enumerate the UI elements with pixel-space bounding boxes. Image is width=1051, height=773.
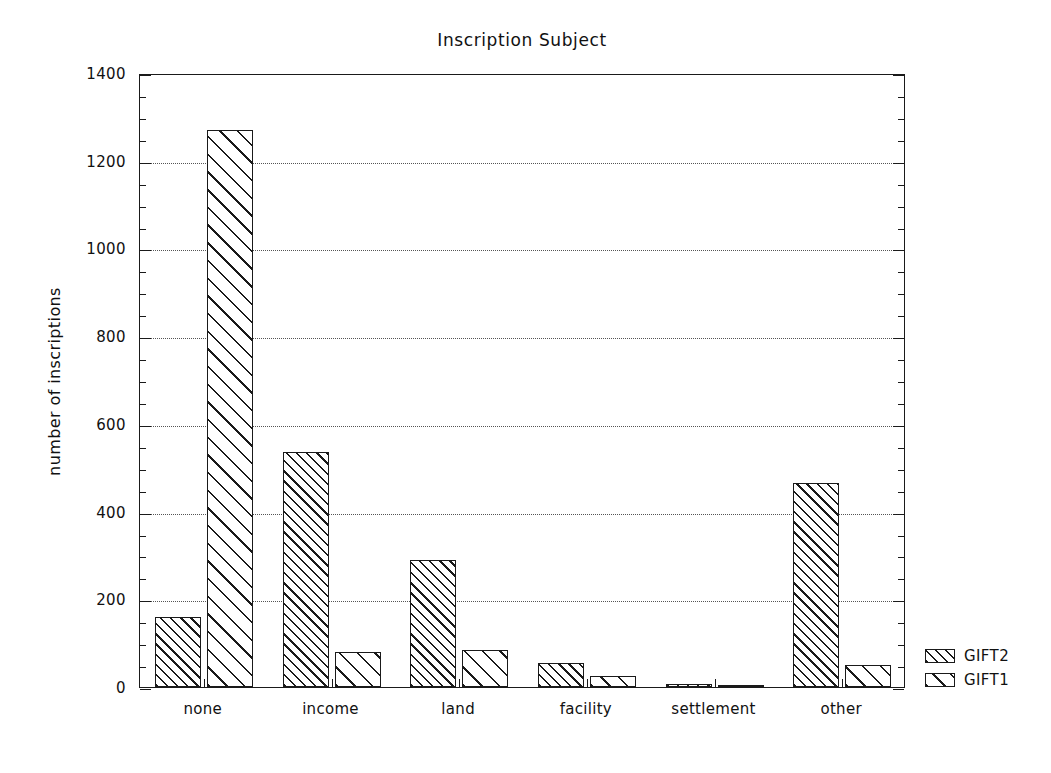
x-axis-tick <box>332 679 333 687</box>
y-axis-major-tick <box>140 163 151 164</box>
bar-gift1-settlement <box>718 685 764 688</box>
gridline <box>140 426 904 427</box>
gridline <box>140 514 904 515</box>
y-axis-minor-tick <box>140 492 146 493</box>
y-axis-tick-label: 600 <box>96 416 126 434</box>
y-axis-minor-tick <box>140 667 146 668</box>
bar-gift1-land <box>462 650 508 687</box>
bar-gift2-none <box>155 617 201 687</box>
y-axis-major-tick <box>893 689 904 690</box>
y-axis-major-tick <box>893 75 904 76</box>
x-axis-tick-label-facility: facility <box>560 700 612 718</box>
bar-gift2-facility <box>538 663 584 687</box>
y-axis-minor-tick <box>898 557 904 558</box>
y-axis-minor-tick <box>140 470 146 471</box>
y-axis-minor-tick <box>898 97 904 98</box>
y-axis-minor-tick <box>140 382 146 383</box>
y-axis-tick-label: 400 <box>96 504 126 522</box>
y-axis-tick-label: 200 <box>96 591 126 609</box>
y-axis-minor-tick <box>140 97 146 98</box>
y-axis-minor-tick <box>140 294 146 295</box>
y-axis-major-tick <box>140 514 151 515</box>
chart-title: Inscription Subject <box>139 30 905 50</box>
y-axis-tick-label: 1000 <box>86 240 126 258</box>
y-axis-major-tick <box>140 689 151 690</box>
y-axis-minor-tick <box>898 294 904 295</box>
y-axis-minor-tick <box>898 404 904 405</box>
y-axis-tick-label: 0 <box>116 679 126 697</box>
y-axis-major-tick <box>893 250 904 251</box>
y-axis-minor-tick <box>140 536 146 537</box>
y-axis-minor-tick <box>140 119 146 120</box>
gridline <box>140 601 904 602</box>
y-axis-minor-tick <box>898 119 904 120</box>
y-axis-minor-tick <box>140 316 146 317</box>
x-axis-tick-label-income: income <box>302 700 359 718</box>
y-axis-minor-tick <box>898 448 904 449</box>
y-axis-tick-label: 1400 <box>86 65 126 83</box>
y-axis-minor-tick <box>898 229 904 230</box>
x-axis-tick-labels: noneincomelandfacilitysettlementother <box>139 700 905 726</box>
legend-item-gift1: GIFT1 <box>925 669 1045 690</box>
y-axis-minor-tick <box>898 645 904 646</box>
y-axis-major-tick <box>893 338 904 339</box>
bar-gift1-none <box>207 130 253 687</box>
x-axis-tick <box>204 679 205 687</box>
y-axis-minor-tick <box>898 623 904 624</box>
y-axis-minor-tick <box>898 316 904 317</box>
gridline <box>140 250 904 251</box>
bar-gift2-other <box>793 483 839 687</box>
y-axis-minor-tick <box>140 448 146 449</box>
y-axis-minor-tick <box>898 141 904 142</box>
y-axis-tick-labels: 0200400600800100012001400 <box>62 74 126 688</box>
gridline <box>140 163 904 164</box>
chart-legend: GIFT2GIFT1 <box>925 645 1045 693</box>
y-axis-minor-tick <box>898 185 904 186</box>
y-axis-minor-tick <box>140 557 146 558</box>
y-axis-major-tick <box>140 250 151 251</box>
y-axis-major-tick <box>893 163 904 164</box>
y-axis-minor-tick <box>898 360 904 361</box>
y-axis-minor-tick <box>140 272 146 273</box>
bar-gift1-income <box>335 652 381 687</box>
y-axis-minor-tick <box>140 229 146 230</box>
bar-gift2-income <box>283 452 329 687</box>
chart-figure: Inscription Subject number of inscriptio… <box>0 0 1051 773</box>
x-axis-tick-label-other: other <box>820 700 861 718</box>
bar-gift2-land <box>410 560 456 687</box>
y-axis-major-tick <box>140 338 151 339</box>
y-axis-minor-tick <box>898 207 904 208</box>
y-axis-minor-tick <box>898 667 904 668</box>
y-axis-major-tick <box>140 601 151 602</box>
y-axis-minor-tick <box>898 272 904 273</box>
y-axis-minor-tick <box>140 623 146 624</box>
y-axis-minor-tick <box>140 207 146 208</box>
y-axis-minor-tick <box>898 492 904 493</box>
x-axis-tick-label-land: land <box>441 700 475 718</box>
x-axis-tick <box>587 679 588 687</box>
y-axis-minor-tick <box>140 185 146 186</box>
y-axis-minor-tick <box>140 141 146 142</box>
x-axis-tick <box>842 679 843 687</box>
y-axis-minor-tick <box>898 470 904 471</box>
y-axis-minor-tick <box>898 382 904 383</box>
legend-item-gift2: GIFT2 <box>925 645 1045 666</box>
y-axis-major-tick <box>140 75 151 76</box>
y-axis-minor-tick <box>140 579 146 580</box>
y-axis-minor-tick <box>140 404 146 405</box>
bar-gift1-other <box>845 665 891 687</box>
x-axis-tick-label-none: none <box>184 700 223 718</box>
x-axis-tick <box>715 679 716 687</box>
bar-gift2-settlement <box>666 684 712 688</box>
y-axis-minor-tick <box>898 579 904 580</box>
legend-swatch-gift1 <box>925 673 955 687</box>
y-axis-tick-label: 800 <box>96 328 126 346</box>
bar-gift1-facility <box>590 676 636 687</box>
y-axis-tick-label: 1200 <box>86 153 126 171</box>
y-axis-minor-tick <box>898 536 904 537</box>
plot-area <box>139 74 905 688</box>
y-axis-major-tick <box>893 514 904 515</box>
y-axis-major-tick <box>893 426 904 427</box>
gridline <box>140 338 904 339</box>
y-axis-minor-tick <box>140 645 146 646</box>
